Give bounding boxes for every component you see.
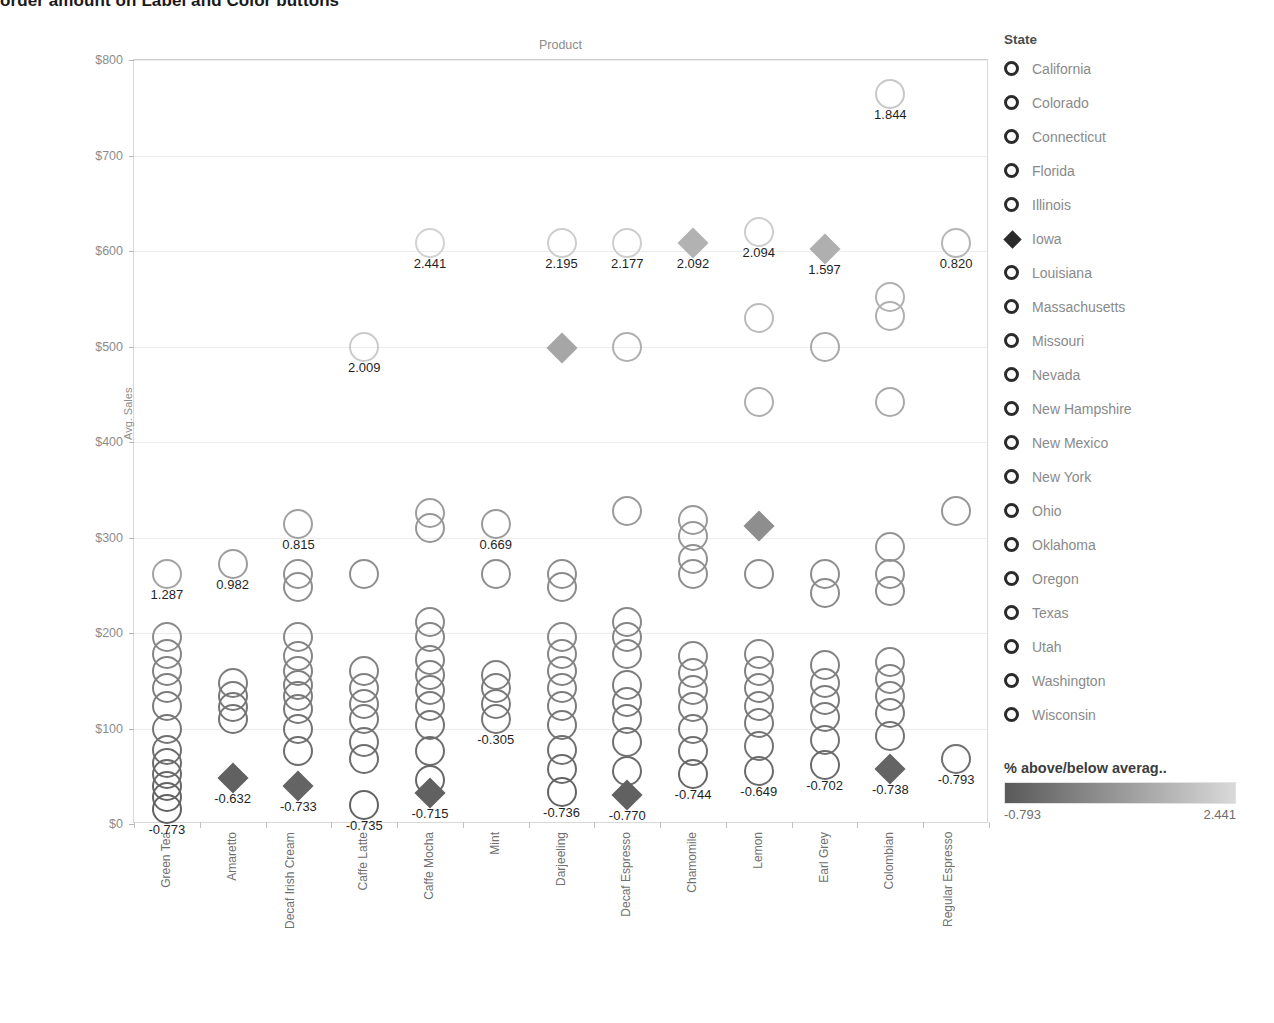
y-axis-tick-label: $200 bbox=[56, 626, 134, 640]
x-axis-label[interactable]: Decaf Espresso bbox=[620, 832, 636, 917]
data-point-circle[interactable] bbox=[875, 576, 905, 606]
data-point-circle[interactable] bbox=[612, 639, 642, 669]
data-point-circle[interactable] bbox=[612, 727, 642, 757]
data-point-circle[interactable] bbox=[218, 704, 248, 734]
x-axis-label[interactable]: Chamomile bbox=[686, 832, 702, 893]
data-point-circle[interactable] bbox=[283, 509, 313, 539]
data-point-circle[interactable] bbox=[481, 509, 511, 539]
data-point-label: 2.009 bbox=[348, 360, 381, 375]
data-point-circle[interactable] bbox=[612, 496, 642, 526]
data-point-circle[interactable] bbox=[744, 303, 774, 333]
data-point-circle[interactable] bbox=[941, 228, 971, 258]
legend-item-wisconsin[interactable]: Wisconsin bbox=[1004, 698, 1266, 732]
data-point-diamond[interactable] bbox=[875, 753, 906, 784]
data-point-circle[interactable] bbox=[678, 759, 708, 789]
legend-item-new-york[interactable]: New York bbox=[1004, 460, 1266, 494]
data-point-circle[interactable] bbox=[875, 532, 905, 562]
color-gradient-bar[interactable] bbox=[1004, 782, 1236, 804]
data-point-circle[interactable] bbox=[547, 228, 577, 258]
chart-page: order amount on Label and Color buttons … bbox=[0, 0, 1274, 1023]
x-axis-label[interactable]: Caffe Latte bbox=[357, 832, 373, 891]
data-point-circle[interactable] bbox=[152, 559, 182, 589]
legend-item-illinois[interactable]: Illinois bbox=[1004, 188, 1266, 222]
data-point-circle[interactable] bbox=[349, 744, 379, 774]
x-axis-label[interactable]: Amaretto bbox=[226, 832, 242, 881]
plot-area[interactable]: Avg. Sales $800$700$600$500$400$300$200$… bbox=[133, 59, 988, 823]
data-point-diamond[interactable] bbox=[809, 234, 840, 265]
legend-item-texas[interactable]: Texas bbox=[1004, 596, 1266, 630]
data-point-circle[interactable] bbox=[941, 496, 971, 526]
data-point-circle[interactable] bbox=[283, 572, 313, 602]
data-point-circle[interactable] bbox=[547, 572, 577, 602]
data-point-circle[interactable] bbox=[744, 559, 774, 589]
legend-item-oklahoma[interactable]: Oklahoma bbox=[1004, 528, 1266, 562]
color-legend-max: 2.441 bbox=[1203, 807, 1236, 822]
data-point-circle[interactable] bbox=[481, 559, 511, 589]
data-point-circle[interactable] bbox=[612, 332, 642, 362]
data-point-circle[interactable] bbox=[875, 387, 905, 417]
data-point-circle[interactable] bbox=[152, 794, 182, 824]
circle-marker-icon bbox=[1004, 435, 1021, 452]
legend-item-utah[interactable]: Utah bbox=[1004, 630, 1266, 664]
data-point-circle[interactable] bbox=[744, 756, 774, 786]
legend-item-ohio[interactable]: Ohio bbox=[1004, 494, 1266, 528]
data-point-circle[interactable] bbox=[810, 332, 840, 362]
data-point-circle[interactable] bbox=[283, 736, 313, 766]
data-point-diamond[interactable] bbox=[612, 780, 643, 811]
x-axis-tick bbox=[594, 822, 595, 828]
legend-item-louisiana[interactable]: Louisiana bbox=[1004, 256, 1266, 290]
x-axis-label[interactable]: Green Tea bbox=[160, 832, 176, 888]
legend-item-california[interactable]: California bbox=[1004, 52, 1266, 86]
column-header-product: Product bbox=[133, 38, 988, 58]
legend-item-connecticut[interactable]: Connecticut bbox=[1004, 120, 1266, 154]
data-point-label: 1.844 bbox=[874, 107, 907, 122]
x-axis-label[interactable]: Earl Grey bbox=[818, 832, 834, 883]
legend-item-new-hampshire[interactable]: New Hampshire bbox=[1004, 392, 1266, 426]
legend-item-florida[interactable]: Florida bbox=[1004, 154, 1266, 188]
legend-item-nevada[interactable]: Nevada bbox=[1004, 358, 1266, 392]
data-point-label: -0.305 bbox=[477, 732, 514, 747]
data-point-circle[interactable] bbox=[481, 704, 511, 734]
legend-item-label: Missouri bbox=[1032, 333, 1084, 349]
data-point-circle[interactable] bbox=[349, 332, 379, 362]
data-point-circle[interactable] bbox=[875, 721, 905, 751]
data-point-circle[interactable] bbox=[810, 578, 840, 608]
data-point-diamond[interactable] bbox=[217, 763, 248, 794]
data-point-diamond[interactable] bbox=[546, 333, 577, 364]
circle-marker-icon bbox=[1004, 503, 1021, 520]
data-point-circle[interactable] bbox=[875, 301, 905, 331]
x-axis-label[interactable]: Mint bbox=[489, 832, 505, 855]
legend-item-massachusetts[interactable]: Massachusetts bbox=[1004, 290, 1266, 324]
data-point-diamond[interactable] bbox=[283, 770, 314, 801]
x-axis-label[interactable]: Regular Espresso bbox=[942, 832, 972, 982]
legend-item-missouri[interactable]: Missouri bbox=[1004, 324, 1266, 358]
data-point-circle[interactable] bbox=[349, 559, 379, 589]
data-point-circle[interactable] bbox=[612, 228, 642, 258]
data-point-circle[interactable] bbox=[415, 736, 445, 766]
data-point-circle[interactable] bbox=[744, 387, 774, 417]
data-point-circle[interactable] bbox=[547, 777, 577, 807]
data-point-circle[interactable] bbox=[415, 710, 445, 740]
data-point-circle[interactable] bbox=[678, 559, 708, 589]
legend-item-new-mexico[interactable]: New Mexico bbox=[1004, 426, 1266, 460]
data-point-circle[interactable] bbox=[810, 750, 840, 780]
data-point-label: 2.441 bbox=[414, 256, 447, 271]
x-axis-label[interactable]: Darjeeling bbox=[555, 832, 571, 886]
legend-item-iowa[interactable]: Iowa bbox=[1004, 222, 1266, 256]
data-point-circle[interactable] bbox=[349, 790, 379, 820]
data-point-circle[interactable] bbox=[415, 228, 445, 258]
data-point-circle[interactable] bbox=[941, 744, 971, 774]
data-point-diamond[interactable] bbox=[677, 228, 708, 259]
x-axis-label[interactable]: Decaf Irish Cream bbox=[284, 832, 314, 982]
data-point-circle[interactable] bbox=[875, 79, 905, 109]
legend-item-oregon[interactable]: Oregon bbox=[1004, 562, 1266, 596]
legend-item-label: Texas bbox=[1032, 605, 1069, 621]
data-point-circle[interactable] bbox=[415, 513, 445, 543]
x-axis-label[interactable]: Caffe Mocha bbox=[423, 832, 439, 900]
data-point-circle[interactable] bbox=[744, 217, 774, 247]
x-axis-label[interactable]: Colombian bbox=[883, 832, 899, 889]
legend-item-colorado[interactable]: Colorado bbox=[1004, 86, 1266, 120]
legend-item-washington[interactable]: Washington bbox=[1004, 664, 1266, 698]
x-axis-label[interactable]: Lemon bbox=[752, 832, 768, 869]
data-point-circle[interactable] bbox=[218, 549, 248, 579]
